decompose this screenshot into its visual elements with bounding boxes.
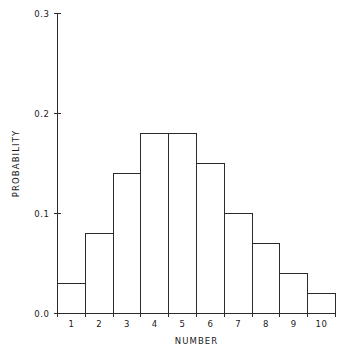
chart-canvas: 0.00.10.20.312345678910NUMBERPROBABILITY bbox=[0, 0, 356, 360]
histogram-bar bbox=[197, 164, 225, 314]
x-axis-tick-label: 4 bbox=[152, 319, 158, 329]
y-axis-tick-label: 0.1 bbox=[34, 209, 49, 219]
histogram-bar bbox=[252, 244, 280, 314]
y-axis-tick-label: 0.2 bbox=[34, 109, 49, 119]
histogram-bar bbox=[113, 174, 141, 314]
x-axis-tick-label: 7 bbox=[235, 319, 241, 329]
x-axis-tick-label: 9 bbox=[291, 319, 297, 329]
histogram-bar bbox=[280, 274, 308, 314]
histogram-bar bbox=[169, 134, 197, 314]
x-axis-tick-label: 10 bbox=[316, 319, 328, 329]
probability-histogram-figure: 0.00.10.20.312345678910NUMBERPROBABILITY bbox=[0, 0, 356, 360]
histogram-bar bbox=[85, 234, 113, 314]
x-axis-tick-label: 3 bbox=[124, 319, 130, 329]
x-axis-tick-label: 2 bbox=[96, 319, 102, 329]
x-axis-tick-label: 5 bbox=[180, 319, 186, 329]
y-axis-tick-label: 0.0 bbox=[34, 309, 49, 319]
x-axis-tick-label: 8 bbox=[263, 319, 269, 329]
x-axis-tick-label: 6 bbox=[207, 319, 213, 329]
y-axis-tick-label: 0.3 bbox=[34, 9, 49, 19]
x-axis-title: NUMBER bbox=[175, 336, 219, 346]
histogram-bar bbox=[224, 214, 252, 314]
y-axis-title: PROBABILITY bbox=[11, 130, 21, 197]
histogram-bar bbox=[308, 294, 336, 314]
histogram-bar bbox=[58, 284, 86, 314]
histogram-bar bbox=[141, 134, 169, 314]
x-axis-tick-label: 1 bbox=[68, 319, 74, 329]
